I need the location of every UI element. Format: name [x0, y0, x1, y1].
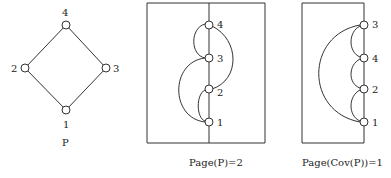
node-label-1: 1 [63, 119, 69, 130]
node-3 [102, 64, 110, 72]
caption-page-p: Page(P)=2 [189, 157, 243, 168]
node-2 [21, 64, 29, 72]
edge-3-4 [66, 25, 106, 68]
spine-node-3 [205, 54, 213, 62]
spine-node-1 [360, 118, 368, 126]
caption-page-cov: Page(Cov(P))=1 [302, 157, 383, 168]
node-label-3: 3 [113, 63, 119, 74]
node-label-4: 4 [62, 7, 68, 18]
spine-node-2 [205, 85, 213, 93]
edge-1-2 [25, 68, 66, 110]
arc-4-2 [351, 59, 360, 88]
spine-label-4: 4 [372, 53, 378, 64]
poset-diagram: 4 2 3 1 P [11, 7, 119, 148]
book-embedding-p: 4 3 2 1 Page(P)=2 [147, 3, 265, 168]
spine-node-4 [205, 21, 213, 29]
node-label-2: 2 [11, 63, 17, 74]
spine-label-3: 3 [372, 19, 378, 30]
spine-label-4: 4 [217, 19, 223, 30]
spine-label-1: 1 [372, 117, 378, 128]
page-frame-cov [302, 3, 364, 143]
spine-label-2: 2 [217, 87, 223, 98]
spine-node-1 [205, 118, 213, 126]
spine-label-3: 3 [217, 53, 223, 64]
node-1 [62, 106, 70, 114]
arc-1-2-left [198, 90, 205, 121]
arc-1-3-left [179, 58, 205, 122]
spine-node-4 [360, 54, 368, 62]
book-embedding-cov: 3 4 2 1 Page(Cov(P))=1 [302, 3, 383, 168]
arc-2-1 [351, 90, 360, 121]
edge-2-4 [25, 25, 66, 68]
spine-node-3 [360, 21, 368, 29]
edge-1-3 [66, 68, 106, 110]
arc-1-3 [319, 25, 360, 122]
arc-3-4-left [194, 24, 205, 58]
poset-caption: P [62, 137, 69, 148]
spine-node-2 [360, 85, 368, 93]
arc-3-4 [351, 26, 360, 57]
spine-label-2: 2 [372, 84, 378, 95]
node-4 [62, 21, 70, 29]
spine-label-1: 1 [217, 117, 223, 128]
figure-canvas: 4 2 3 1 P 4 3 2 1 Page(P)=2 [0, 0, 391, 178]
